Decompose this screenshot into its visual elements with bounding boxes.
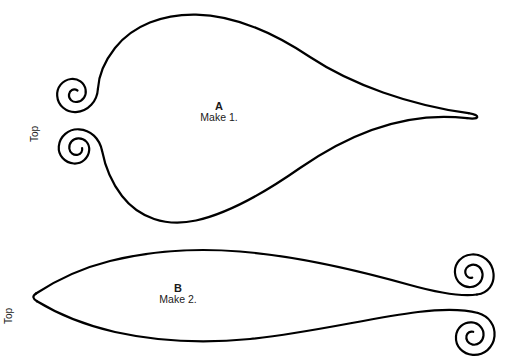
piece-b-top-edge <box>36 250 477 295</box>
piece-a-right-tip <box>467 113 477 118</box>
pattern-sheet: A Make 1. Top B Make 2. Top <box>0 0 512 361</box>
piece-a-lower-spiral <box>59 129 102 163</box>
piece-a-upper-spiral <box>57 79 98 112</box>
piece-a-bottom-edge <box>102 117 467 223</box>
piece-b-left-tip <box>33 294 37 302</box>
piece-b-lower-spiral <box>456 313 495 355</box>
piece-b-upper-spiral <box>455 254 494 294</box>
piece-b-bottom-edge <box>37 301 478 341</box>
pattern-drawing <box>0 0 512 361</box>
piece-a-top-edge <box>98 15 469 114</box>
piece-a-outline <box>57 15 477 223</box>
piece-b-outline <box>33 250 494 355</box>
